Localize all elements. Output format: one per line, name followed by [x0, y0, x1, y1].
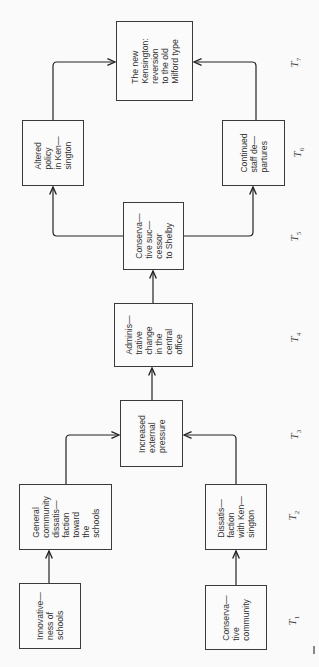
time-label-t5: T5 [288, 232, 303, 242]
node-label: Adminis— trative change in the central o… [124, 315, 184, 354]
edge-general-to-pressure [66, 435, 119, 484]
time-label-t4: T4 [288, 333, 303, 343]
node-label: Increased external pressure [137, 415, 167, 453]
time-label-base: T [288, 336, 300, 342]
time-label-t3: T3 [288, 430, 303, 440]
time-label-t1: T1 [286, 616, 301, 626]
edge-successor-to-altered [53, 187, 123, 236]
node-label: Altered policy in Ken— sington [33, 137, 73, 170]
node-external-pressure: Increased external pressure [120, 400, 183, 467]
time-label-sub: 4 [295, 333, 303, 337]
node-admin-change: Adminis— trative change in the central o… [114, 303, 193, 367]
node-conservative-community: Conserva— tive community [205, 585, 267, 650]
time-label-base: T [286, 514, 298, 520]
node-general-dissatisfaction: General community dissatis— faction towa… [19, 484, 112, 550]
edge-successor-to-staff [184, 187, 253, 236]
time-label-sub: 2 [293, 511, 301, 515]
time-label-sub: 1 [293, 616, 301, 620]
node-label: Dissatis— faction with Ken— sington [216, 496, 256, 538]
time-label-base: T [288, 61, 300, 67]
node-innovativeness: Innovative— ness of schools [19, 583, 81, 649]
node-dissatisfaction-kensington: Dissatis— faction with Ken— sington [205, 484, 267, 550]
edge-staff-to-new [194, 62, 256, 120]
time-label-t6: T6 [291, 148, 306, 158]
node-conservative-successor: Conserva— tive suc— cessor to Shelby [123, 202, 184, 270]
edge-dissatis-to-pressure [184, 435, 236, 484]
time-label-t2: T2 [286, 511, 301, 521]
time-label-sub: 5 [295, 232, 303, 236]
node-label: Continued staff de— partures [239, 133, 269, 172]
time-label-base: T [291, 151, 303, 157]
node-altered-policy: Altered policy in Ken— sington [22, 120, 84, 186]
node-label: Innovative— ness of schools [35, 592, 65, 640]
node-label: Conserva— tive community [221, 595, 251, 640]
node-staff-departures: Continued staff de— partures [222, 120, 285, 186]
node-new-kensington: The new Kensington: reversion to the old… [116, 21, 193, 101]
node-label: Conserva— tive suc— cessor to Shelby [134, 213, 174, 258]
edge-altered-to-new [53, 62, 115, 120]
node-label: The new Kensington: reversion to the old… [130, 38, 180, 83]
time-label-sub: 7 [295, 58, 303, 62]
node-label: General community dissatis— faction towa… [31, 496, 101, 538]
time-label-base: T [286, 619, 298, 625]
time-label-t7: T7 [288, 58, 303, 68]
time-label-base: T [288, 235, 300, 241]
time-label-base: T [288, 433, 300, 439]
time-label-sub: 3 [295, 430, 303, 434]
caption-fragment [313, 646, 315, 654]
time-label-sub: 6 [298, 148, 306, 152]
